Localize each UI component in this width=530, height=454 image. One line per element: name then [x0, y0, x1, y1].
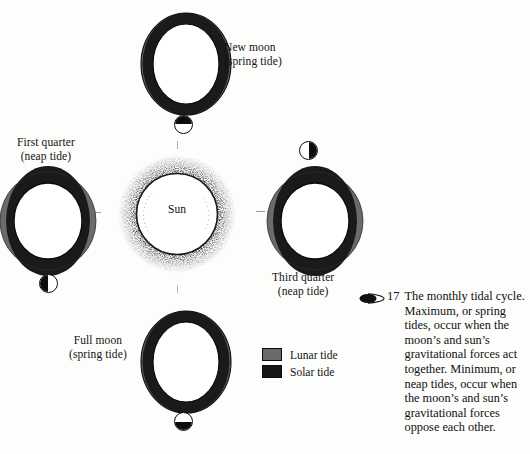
sun-group: Sun — [118, 155, 236, 273]
first-quarter-label-line1: First quarter — [17, 136, 75, 148]
connector-tick-bottom — [177, 285, 178, 293]
full-moon-label: Full moon (spring tide) — [69, 334, 127, 361]
new-moon-label-line1: New moon — [224, 41, 276, 53]
third-quarter-label-line2: (neap tide) — [272, 285, 334, 299]
earth-core — [14, 183, 82, 259]
solar-tide-swatch — [262, 365, 282, 378]
legend-item-solar-tide: Solar tide — [262, 364, 338, 379]
earth-core — [153, 24, 219, 104]
tidal-cycle-figure: Sun — [0, 0, 530, 454]
new-moon-label-line2: (spring tide) — [224, 55, 282, 69]
tide-legend: Lunar tide Solar tide — [262, 347, 338, 381]
legend-item-lunar-tide: Lunar tide — [262, 347, 338, 362]
legend-label-solar-tide: Solar tide — [290, 366, 334, 378]
figure-caption: 17 The monthly tidal cycle. Maximum, or … — [359, 289, 527, 435]
full-moon-label-line2: (spring tide) — [69, 348, 127, 362]
new-moon-phase-icon — [174, 115, 193, 134]
figure-number: 17 — [387, 289, 400, 304]
earth-core — [153, 322, 219, 402]
first-quarter-label: First quarter (neap tide) — [17, 136, 75, 163]
lens-marker-icon — [359, 293, 385, 304]
earth-core — [281, 183, 349, 259]
new-moon-label: New moon (spring tide) — [224, 41, 282, 68]
full-moon-tide-ring — [140, 310, 232, 414]
lunar-tide-swatch — [262, 348, 282, 361]
connector-tick-top — [177, 141, 178, 149]
sun-label: Sun — [118, 203, 236, 215]
third-quarter-phase-icon — [299, 141, 318, 160]
third-quarter-label-line1: Third quarter — [272, 271, 334, 283]
first-quarter-tide-ring — [0, 165, 96, 277]
third-quarter-label: Third quarter (neap tide) — [272, 271, 334, 298]
figure-caption-text: The monthly tidal cycle. Maximum, or spr… — [405, 289, 528, 435]
third-quarter-tide-ring — [267, 165, 363, 277]
first-quarter-phase-icon — [39, 274, 58, 293]
connector-tick-right — [256, 211, 265, 212]
first-quarter-label-line2: (neap tide) — [17, 150, 75, 164]
legend-label-lunar-tide: Lunar tide — [290, 349, 338, 361]
full-moon-phase-icon — [174, 412, 193, 431]
new-moon-tide-ring — [140, 12, 232, 116]
full-moon-label-line1: Full moon — [74, 334, 123, 346]
